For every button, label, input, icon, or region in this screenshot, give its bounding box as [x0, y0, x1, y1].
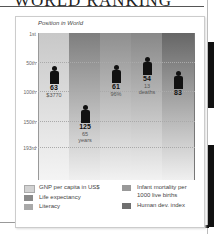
person-icon	[50, 66, 59, 84]
column-literacy	[100, 33, 132, 180]
legend-swatch	[122, 185, 131, 191]
column-infant-mortality	[131, 33, 163, 180]
legend-item-infant-mortality: Infant mortality per 1000 live births	[122, 184, 202, 202]
plot-area: 63 $3770 125 65 years 61 96% 54 13 death…	[38, 33, 195, 180]
legend-swatch	[122, 203, 131, 209]
ranking-chart-panel: Position in World 1st 50th 100th 150th 1…	[15, 16, 205, 228]
marker-human-dev-index: 83	[162, 71, 194, 97]
rank-value: 54	[131, 75, 163, 83]
y-tick-150th: 150th	[16, 119, 36, 125]
chart-title: Position in World	[38, 20, 83, 26]
gridline-150th	[34, 121, 195, 122]
legend-label: Literacy	[39, 203, 60, 210]
legend-item-literacy: Literacy	[24, 203, 119, 213]
marker-detail: $3770	[38, 92, 70, 98]
page-edge-bar	[208, 145, 214, 227]
legend-item-human-dev-index: Human dev. index	[122, 202, 202, 212]
marker-infant-mortality: 54 13 deaths	[131, 57, 163, 95]
y-tick-193rd: 193rd	[16, 145, 36, 151]
y-tick-100th: 100th	[16, 89, 36, 95]
marker-literacy: 61 96%	[100, 65, 132, 97]
y-tick-50th: 50th	[16, 60, 36, 66]
legend-label: Life expectancy	[39, 194, 81, 201]
header-divider	[0, 6, 204, 7]
column-human-dev-index	[162, 33, 195, 180]
gridline-50th	[34, 62, 195, 63]
rank-value: 61	[100, 83, 132, 91]
page-divider	[0, 222, 16, 223]
legend-swatch	[24, 185, 35, 193]
rank-value: 83	[162, 89, 194, 97]
rank-value: 125	[69, 123, 101, 131]
legend-right: Infant mortality per 1000 live births Hu…	[122, 184, 202, 212]
person-icon	[112, 65, 121, 83]
legend-swatch	[24, 204, 33, 210]
marker-detail: 96%	[100, 91, 132, 97]
rank-value: 63	[38, 84, 70, 92]
legend-label: Human dev. index	[137, 202, 185, 209]
legend-item-life-expectancy: Life expectancy	[24, 194, 119, 203]
column-gnp	[38, 33, 71, 180]
legend-left: GNP per capita in US$ Life expectancy Li…	[24, 184, 119, 213]
marker-detail-unit: deaths	[131, 89, 163, 95]
gridline-193rd	[34, 147, 195, 148]
legend-label: GNP per capita in US$	[39, 184, 100, 191]
legend-item-gnp: GNP per capita in US$	[24, 184, 119, 194]
person-icon	[81, 105, 90, 123]
legend-swatch	[24, 195, 33, 201]
legend-label: Infant mortality per	[137, 184, 187, 191]
marker-detail-unit: years	[69, 137, 101, 143]
marker-gnp: 63 $3770	[38, 66, 70, 98]
y-tick-1st: 1st	[16, 31, 36, 37]
page-edge-bar	[208, 42, 214, 108]
marker-life-expectancy: 125 65 years	[69, 105, 101, 143]
legend-label-line2: 1000 live births	[137, 192, 177, 199]
person-icon	[174, 71, 183, 89]
person-icon	[143, 57, 152, 75]
